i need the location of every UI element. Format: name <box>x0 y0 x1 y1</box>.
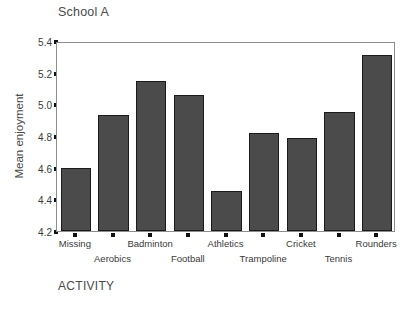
x-axis-label: Athletics <box>208 238 244 249</box>
x-tick-mark <box>111 233 115 237</box>
bars-container <box>57 43 394 231</box>
y-tick-label: 4.6 <box>12 163 52 174</box>
x-tick-mark <box>186 233 190 237</box>
plot-area <box>56 42 395 232</box>
x-tick-mark <box>73 233 77 237</box>
bar <box>98 115 128 231</box>
bar <box>136 81 166 231</box>
x-axis-label: Aerobics <box>94 253 131 264</box>
y-tick-label: 5.4 <box>12 37 52 48</box>
y-tick-label: 5.2 <box>12 68 52 79</box>
bar-chart-figure: School A Mean enjoyment 5.4 5.2 5.0 4.8 … <box>0 0 417 312</box>
y-tick-label: 4.8 <box>12 132 52 143</box>
x-axis-label: Rounders <box>356 238 397 249</box>
x-axis-label: Trampoline <box>240 253 287 264</box>
x-axis-label: Tennis <box>325 253 352 264</box>
x-tick-mark <box>148 233 152 237</box>
x-tick-mark <box>261 233 265 237</box>
y-axis-tick-labels: 5.4 5.2 5.0 4.8 4.6 4.4 4.2 <box>8 42 52 232</box>
x-tick-mark <box>337 233 341 237</box>
bar <box>362 55 392 231</box>
y-tick-label: 4.4 <box>12 195 52 206</box>
y-tick-label: 5.0 <box>12 100 52 111</box>
chart-title: School A <box>58 5 109 19</box>
x-axis-label: Cricket <box>286 238 316 249</box>
x-tick-mark <box>374 233 378 237</box>
x-axis-label: Badminton <box>127 238 172 249</box>
bar <box>249 133 279 231</box>
x-axis-label: Missing <box>59 238 91 249</box>
y-tick-label: 4.2 <box>12 227 52 238</box>
x-tick-mark <box>224 233 228 237</box>
bar <box>287 138 317 231</box>
bar <box>211 191 241 231</box>
bar <box>324 112 354 231</box>
bar <box>174 95 204 231</box>
x-axis-title: ACTIVITY <box>58 279 114 293</box>
x-tick-mark <box>299 233 303 237</box>
x-axis-label: Football <box>171 253 205 264</box>
bar <box>61 168 91 231</box>
